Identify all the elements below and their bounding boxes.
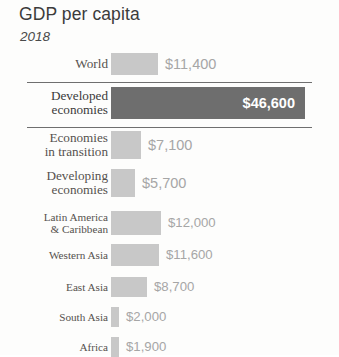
chart-row: South Asia$2,000: [0, 307, 339, 327]
bar-value-label: $1,900: [126, 340, 166, 353]
chart-title: GDP per capita: [19, 4, 140, 25]
category-label: World: [75, 57, 108, 71]
chart-row: Developed economies$46,600: [0, 87, 339, 119]
category-label: Developing economies: [46, 169, 108, 198]
category-label: Latin America & Caribbean: [44, 211, 108, 235]
chart-plot-area: World$11,400Developed economies$46,600Ec…: [0, 50, 339, 350]
chart-row: World$11,400: [0, 53, 339, 75]
highlight-rule-top: [27, 82, 312, 83]
chart-row: Western Asia$11,600: [0, 244, 339, 266]
bar: [111, 211, 161, 235]
category-label: Africa: [79, 341, 108, 353]
category-label: East Asia: [66, 281, 108, 293]
bar: [111, 131, 141, 159]
bar: [111, 53, 158, 75]
chart-row: Economies in transition$7,100: [0, 131, 339, 159]
bar-value-label: $2,000: [126, 310, 166, 323]
bar: [111, 277, 147, 297]
category-label: Developed economies: [51, 89, 108, 118]
bar-value-label: $11,600: [166, 248, 213, 261]
category-label: Western Asia: [49, 249, 108, 261]
chart-row: East Asia$8,700: [0, 277, 339, 297]
bar-value-label: $8,700: [154, 280, 194, 293]
chart-row: Africa$1,900: [0, 337, 339, 357]
bar: [111, 169, 135, 197]
bar: [111, 307, 119, 327]
chart-subtitle-year: 2018: [20, 29, 50, 44]
bar-value-label: $7,100: [148, 138, 192, 153]
bar: [111, 337, 119, 357]
chart-row: Developing economies$5,700: [0, 169, 339, 197]
bar-value-label: $5,700: [142, 176, 186, 191]
bar: [111, 244, 159, 266]
highlight-rule-bottom: [27, 127, 312, 128]
bar-value-label: $11,400: [165, 57, 216, 72]
category-label: South Asia: [59, 311, 108, 323]
chart-row: Latin America & Caribbean$12,000: [0, 211, 339, 235]
bar-value-label: $46,600: [243, 96, 295, 111]
bar-value-label: $12,000: [168, 216, 216, 229]
category-label: Economies in transition: [45, 131, 108, 160]
